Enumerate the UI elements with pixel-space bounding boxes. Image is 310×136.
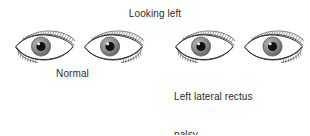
eye-normal-right [12,26,78,66]
eye-drawing [172,26,238,66]
eye-drawing [12,26,78,66]
iris-group [191,37,210,56]
corneal-highlight [106,42,109,45]
group-label-normal: Normal [0,68,145,81]
iris-group [100,37,119,56]
group-label-palsy-line-2: palsy [174,129,306,136]
corneal-highlight [37,42,40,45]
eye-normal-left [81,26,147,66]
iris-group [31,37,50,56]
eye-drawing [241,26,307,66]
iris-group [263,37,282,56]
eye-palsy-left [241,26,307,66]
eye-palsy-right [172,26,238,66]
eye-movement-figure: Looking left [0,0,310,135]
group-label-palsy-line-1: Left lateral rectus [174,91,306,104]
eye-drawing [81,26,147,66]
figure-title: Looking left [0,8,310,21]
corneal-highlight [197,42,200,45]
group-label-palsy: Left lateral rectus palsy (VI nerve) [174,66,306,135]
corneal-highlight [269,42,272,45]
